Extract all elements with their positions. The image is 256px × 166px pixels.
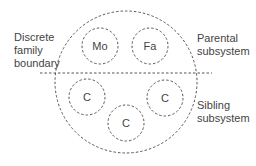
parental-subsystem-label: Parental subsystem — [197, 32, 250, 58]
boundary-label-line: boundary — [14, 57, 60, 70]
father-label: Fa — [144, 40, 158, 52]
child-label-3: C — [122, 117, 130, 129]
family-diagram: Mo Fa C C C — [0, 0, 256, 166]
boundary-label: Discrete family boundary — [14, 31, 60, 70]
child-label-1: C — [83, 91, 91, 103]
sibling-subsystem-label: Sibling subsystem — [197, 99, 250, 125]
child-label-2: C — [161, 92, 169, 104]
parental-label-line: Parental — [197, 32, 250, 45]
sibling-label-line: Sibling — [197, 99, 250, 112]
sibling-label-line: subsystem — [197, 112, 250, 125]
boundary-label-line: Discrete — [14, 31, 60, 44]
boundary-label-line: family — [14, 44, 60, 57]
mother-label: Mo — [92, 40, 107, 52]
parental-label-line: subsystem — [197, 45, 250, 58]
